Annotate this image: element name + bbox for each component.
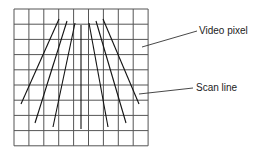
scan-line bbox=[89, 23, 108, 127]
scan-line bbox=[96, 21, 126, 123]
leader-line bbox=[139, 88, 193, 94]
pixel-grid-diagram bbox=[0, 0, 260, 153]
leader-line bbox=[142, 31, 197, 47]
scan-line-label: Scan line bbox=[196, 82, 237, 93]
scan-line bbox=[21, 19, 59, 104]
video-pixel-label: Video pixel bbox=[199, 25, 248, 36]
scan-line bbox=[53, 23, 75, 127]
